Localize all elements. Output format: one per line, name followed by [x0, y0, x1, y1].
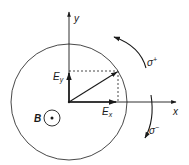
- ey-label: Ey: [53, 71, 64, 84]
- sigma-plus-rotation-arrow: [114, 37, 146, 68]
- x-axis-label: x: [172, 106, 179, 117]
- e-field-vector: [69, 72, 117, 102]
- ex-label: Ex: [102, 106, 113, 118]
- sigma-plus-label: σ+: [147, 56, 157, 68]
- origin-point: [68, 101, 70, 103]
- b-field-dot: [51, 117, 54, 120]
- y-axis-label: y: [73, 13, 80, 24]
- b-field-label: B: [34, 113, 41, 124]
- polarization-diagram: y x Ey Ex B σ+ σ−: [0, 0, 189, 165]
- sigma-minus-label: σ−: [149, 124, 159, 136]
